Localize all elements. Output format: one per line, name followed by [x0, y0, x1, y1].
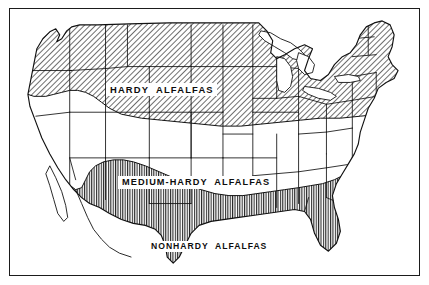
- alfalfa-hardiness-map-figure: HARDY ALFALFAS MEDIUM-HARDY ALFALFAS NON…: [0, 0, 429, 285]
- map-frame: HARDY ALFALFAS MEDIUM-HARDY ALFALFAS NON…: [9, 8, 420, 276]
- lake-ontario: [334, 75, 360, 83]
- zone-label-hardy: HARDY ALFALFAS: [106, 83, 217, 96]
- zone-fill-group: [10, 9, 419, 275]
- us-map-drawing: [10, 9, 419, 275]
- zone-label-medium-hardy: MEDIUM-HARDY ALFALFAS: [118, 176, 273, 189]
- zone-label-nonhardy: NONHARDY ALFALFAS: [148, 241, 269, 252]
